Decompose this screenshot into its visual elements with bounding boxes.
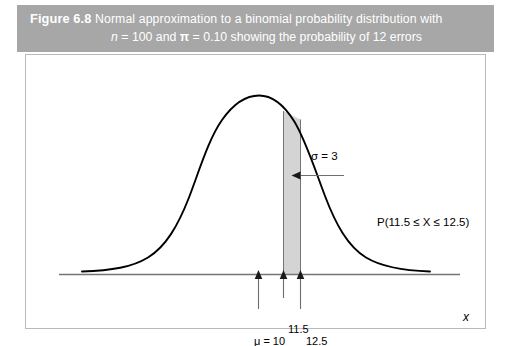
x-axis-label: x bbox=[463, 310, 469, 324]
tick-label-11-5: 11.5 bbox=[288, 323, 309, 335]
figure-caption-band: Figure 6.8 Normal approximation to a bin… bbox=[17, 5, 494, 52]
caption-n-value-text: = 100 and bbox=[118, 30, 180, 44]
caption-n-symbol: n bbox=[111, 30, 118, 44]
shaded-probability-region bbox=[284, 111, 301, 274]
figure-number-label: Figure 6.8 bbox=[30, 11, 91, 26]
figure-card: Figure 6.8 Normal approximation to a bin… bbox=[17, 5, 494, 338]
figure-screenshot: Figure 6.8 Normal approximation to a bin… bbox=[0, 0, 511, 346]
figure-caption-text-line-1: Normal approximation to a binomial proba… bbox=[91, 12, 442, 26]
figure-caption-line-2: n = 100 and π = 0.10 showing the probabi… bbox=[17, 30, 494, 44]
mu-tick-label: μ = 10 bbox=[254, 335, 285, 346]
caption-pi-symbol: π bbox=[180, 30, 189, 44]
tick-label-12-5: 12.5 bbox=[306, 335, 327, 346]
normal-distribution-curve bbox=[82, 96, 430, 272]
figure-caption-line-1: Figure 6.8 Normal approximation to a bin… bbox=[17, 11, 494, 26]
probability-annotation-label: P(11.5 ≤ X ≤ 12.5) bbox=[377, 216, 469, 228]
plot-panel: σ = 3 P(11.5 ≤ X ≤ 12.5) x μ = 10 11.5 1… bbox=[25, 54, 486, 329]
normal-curve-chart bbox=[26, 55, 485, 328]
caption-pi-value-text: = 0.10 showing the probability of 12 err… bbox=[189, 30, 422, 44]
sigma-label: σ = 3 bbox=[311, 150, 338, 162]
